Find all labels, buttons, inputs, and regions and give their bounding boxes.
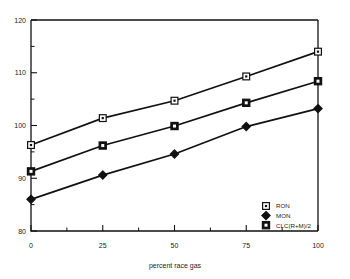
y-axis-tick-labels: 8090100110120 [14, 17, 26, 235]
marker-filled-diamond [314, 105, 322, 113]
series-mon [27, 105, 322, 204]
data-point-2-4 [314, 78, 321, 85]
x-axis-title: percent race gas [149, 262, 202, 270]
data-point-1-1 [99, 171, 107, 179]
marker-inner-square [173, 125, 176, 128]
data-point-0-1 [99, 115, 106, 122]
y-tick-label: 100 [14, 122, 26, 129]
marker-inner-square [317, 80, 320, 83]
data-point-1-2 [170, 150, 178, 158]
y-tick-label: 110 [15, 69, 26, 76]
chart-legend: RONMONCLC(R+M)/2 [262, 202, 312, 229]
marker-filled-diamond [170, 150, 178, 158]
legend-label: RON [276, 202, 290, 209]
x-axis-ticks [31, 225, 318, 231]
data-point-2-3 [243, 99, 250, 106]
series-clc-r-m-2 [27, 78, 321, 175]
marker-center-dot [317, 51, 319, 53]
data-point-1-0 [27, 195, 35, 203]
data-point-2-1 [99, 142, 106, 149]
marker-center-dot [265, 205, 267, 207]
data-point-legend-0 [263, 203, 270, 210]
data-point-2-2 [171, 122, 178, 129]
x-tick-label: 25 [99, 242, 107, 249]
data-point-1-3 [242, 122, 250, 130]
data-point-0-0 [28, 142, 35, 149]
line-chart: 8090100110120 0255075100 percent race ga… [0, 0, 350, 279]
marker-filled-diamond [99, 171, 107, 179]
marker-center-dot [102, 117, 104, 119]
marker-inner-square [30, 170, 33, 173]
chart-container: 8090100110120 0255075100 percent race ga… [0, 0, 350, 279]
data-point-1-4 [314, 105, 322, 113]
y-tick-label: 80 [18, 228, 26, 235]
legend-entry: CLC(R+M)/2 [262, 222, 311, 229]
legend-entry: RON [263, 202, 290, 209]
marker-center-dot [30, 144, 32, 146]
marker-center-dot [173, 100, 175, 102]
x-tick-label: 0 [29, 242, 33, 249]
x-tick-label: 100 [312, 242, 324, 249]
data-series-group [27, 48, 322, 203]
data-point-2-0 [27, 168, 34, 175]
data-point-0-4 [315, 48, 322, 55]
data-point-0-3 [243, 73, 250, 80]
marker-center-dot [245, 75, 247, 77]
x-tick-label: 75 [242, 242, 250, 249]
series-ron [28, 48, 322, 148]
y-tick-label: 90 [18, 175, 26, 182]
marker-inner-square [265, 224, 268, 227]
marker-inner-square [101, 144, 104, 147]
marker-inner-square [245, 101, 248, 104]
y-tick-label: 120 [14, 17, 26, 24]
marker-filled-diamond [242, 122, 250, 130]
legend-entry: MON [262, 212, 291, 220]
x-axis-tick-labels: 0255075100 [29, 242, 324, 249]
legend-label: MON [276, 212, 290, 219]
marker-filled-diamond [27, 195, 35, 203]
data-point-legend-1 [262, 212, 270, 220]
marker-filled-diamond [262, 212, 270, 220]
legend-label: CLC(R+M)/2 [276, 222, 311, 229]
data-point-0-2 [171, 97, 178, 104]
data-point-legend-2 [262, 222, 269, 229]
x-tick-label: 50 [171, 242, 179, 249]
